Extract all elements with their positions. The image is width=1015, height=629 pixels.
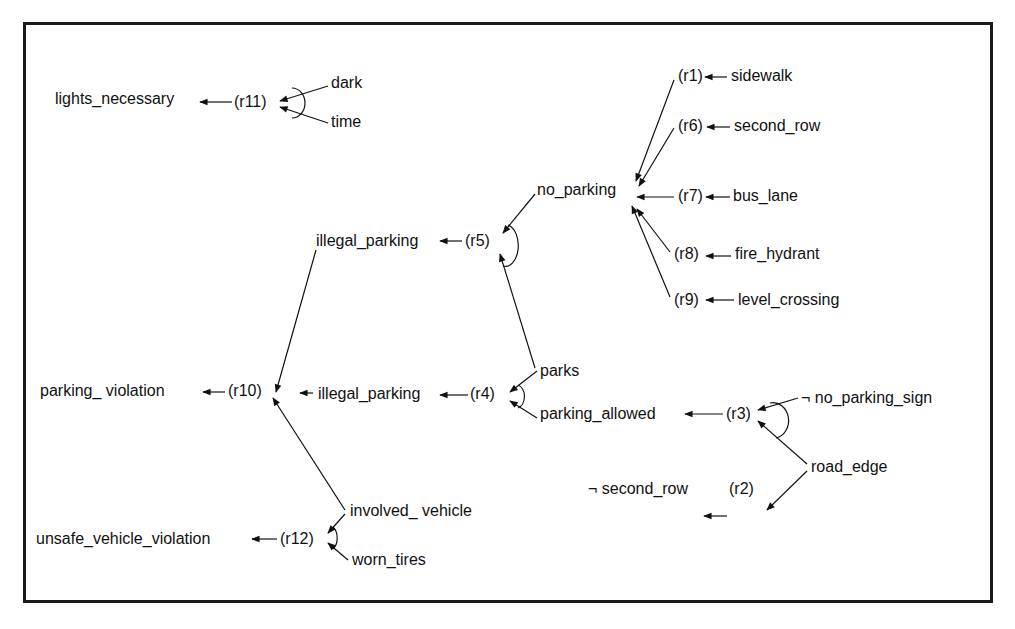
node-second-row-top: second_row bbox=[734, 117, 820, 135]
node-dark: dark bbox=[331, 74, 362, 92]
edge-r1-to-no_parking bbox=[636, 80, 674, 181]
node-r5: (r5) bbox=[465, 232, 490, 250]
node-r7: (r7) bbox=[678, 187, 703, 205]
node-r9: (r9) bbox=[674, 291, 699, 309]
edge-involved_vehicle-to-r10 bbox=[273, 398, 345, 510]
edge-r6-to-no_parking bbox=[639, 128, 674, 186]
node-level-crossing: level_crossing bbox=[738, 291, 839, 309]
edge-illegal_parking_top-to-r10 bbox=[276, 250, 316, 392]
and-arc-r5 bbox=[503, 225, 518, 266]
node-illegal-parking-mid: illegal_parking bbox=[318, 385, 420, 403]
edge-r9-to-no_parking bbox=[632, 206, 670, 297]
node-r4: (r4) bbox=[470, 385, 495, 403]
node-r3: (r3) bbox=[726, 405, 751, 423]
node-r1: (r1) bbox=[678, 67, 703, 85]
node-lights-necessary: lights_necessary bbox=[55, 90, 174, 108]
edge-involved_vehicle-to-r12 bbox=[328, 514, 345, 533]
node-r6: (r6) bbox=[678, 117, 703, 135]
node-r8: (r8) bbox=[674, 245, 699, 263]
node-involved-vehicle: involved_ vehicle bbox=[350, 502, 472, 520]
node-road-edge: road_edge bbox=[811, 458, 888, 476]
edge-no_parking-to-r5 bbox=[503, 194, 535, 233]
edge-parks-to-r4 bbox=[510, 371, 537, 392]
node-parks: parks bbox=[540, 362, 579, 380]
node-r10: (r10) bbox=[228, 382, 262, 400]
node-r12: (r12) bbox=[280, 530, 314, 548]
node-time: time bbox=[331, 113, 361, 131]
and-arc-r4 bbox=[518, 385, 524, 408]
edge-road_edge-to-r2 bbox=[767, 471, 807, 510]
and-arc-r3 bbox=[770, 403, 789, 438]
node-bus-lane: bus_lane bbox=[733, 187, 798, 205]
node-r2: (r2) bbox=[729, 480, 754, 498]
node-fire-hydrant: fire_hydrant bbox=[735, 245, 820, 263]
node-illegal-parking-top: illegal_parking bbox=[316, 232, 418, 250]
edge-parks-to-r5 bbox=[500, 254, 535, 368]
node-r11: (r11) bbox=[234, 93, 267, 111]
node-sidewalk: sidewalk bbox=[731, 67, 792, 85]
and-arc-r12 bbox=[333, 527, 337, 549]
node-parking-allowed: parking_allowed bbox=[540, 405, 656, 423]
edge-worn_tires-to-r12 bbox=[328, 543, 348, 560]
node-unsafe-vehicle-violation: unsafe_vehicle_violation bbox=[36, 530, 210, 548]
edge-road_edge-to-r3 bbox=[758, 421, 807, 464]
node-no-parking-sign: ¬ no_parking_sign bbox=[801, 389, 932, 407]
node-parking-violation: parking_ violation bbox=[40, 382, 165, 400]
node-no-parking: no_parking bbox=[537, 181, 616, 199]
edge-parking_allowed-to-r4 bbox=[510, 401, 537, 418]
node-worn-tires: worn_tires bbox=[352, 551, 426, 569]
node-not-second-row: ¬ second_row bbox=[588, 480, 688, 498]
